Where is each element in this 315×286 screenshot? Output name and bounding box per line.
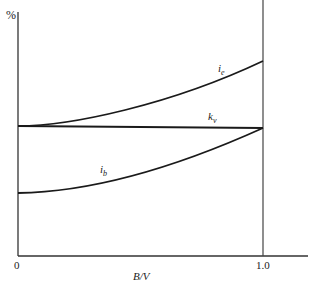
label-ie: ie <box>218 62 225 77</box>
curve-kv <box>18 126 263 128</box>
chart-canvas <box>0 0 315 286</box>
label-kv: kv <box>208 110 216 125</box>
x-tick-0: 0 <box>14 259 20 271</box>
label-ib: ib <box>100 163 107 178</box>
x-axis-label: B/V <box>133 270 150 282</box>
x-tick-1: 1.0 <box>256 259 270 271</box>
curve-ie <box>18 61 263 126</box>
y-axis-label: % <box>6 8 16 23</box>
curve-ib <box>18 128 263 193</box>
